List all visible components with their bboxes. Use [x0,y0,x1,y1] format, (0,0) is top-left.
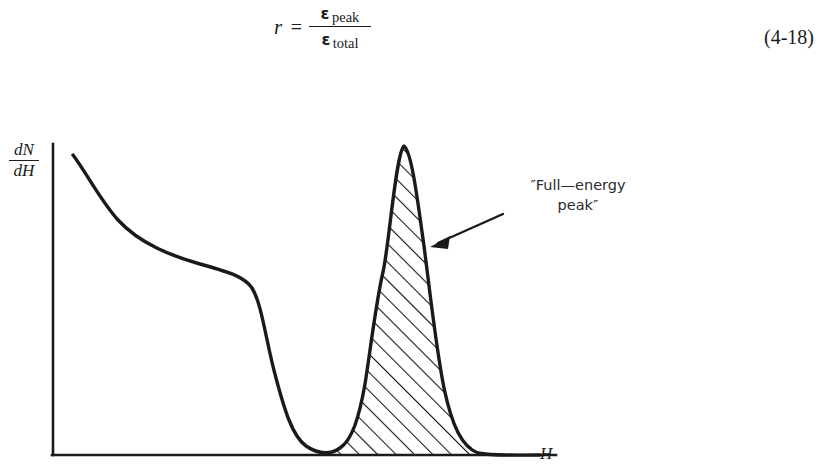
epsilon-symbol-numerator: ε [321,6,330,22]
spectrum-figure: dN dH H ″Full—energy peak″ [0,96,832,471]
full-energy-peak-hatch-fill [280,136,520,458]
y-axis-label-numerator: dN [9,141,39,159]
x-axis-label: H [540,444,552,464]
spectrum-curve [73,146,540,455]
subscript-total: total [333,36,359,51]
y-axis-label: dN dH [9,141,39,180]
peak-annotation-label: ″Full—energy peak″ [503,176,653,215]
y-axis-label-denominator: dH [9,162,39,180]
equation-fraction: ε peak ε total [309,6,371,48]
equation-variable: r [274,15,283,40]
equation-numerator: ε peak [318,6,363,26]
equation-block: r = ε peak ε total (4-18) [0,0,832,96]
equation-denominator: ε total [318,27,361,48]
epsilon-symbol-denominator: ε [321,32,330,48]
equation-equals-sign: = [291,16,302,39]
spectrum-plot-svg [0,96,832,471]
equation-number: (4-18) [764,26,814,49]
subscript-peak: peak [332,10,359,25]
peak-annotation-arrow [430,214,503,249]
equation-4-18: r = ε peak ε total [274,6,371,48]
